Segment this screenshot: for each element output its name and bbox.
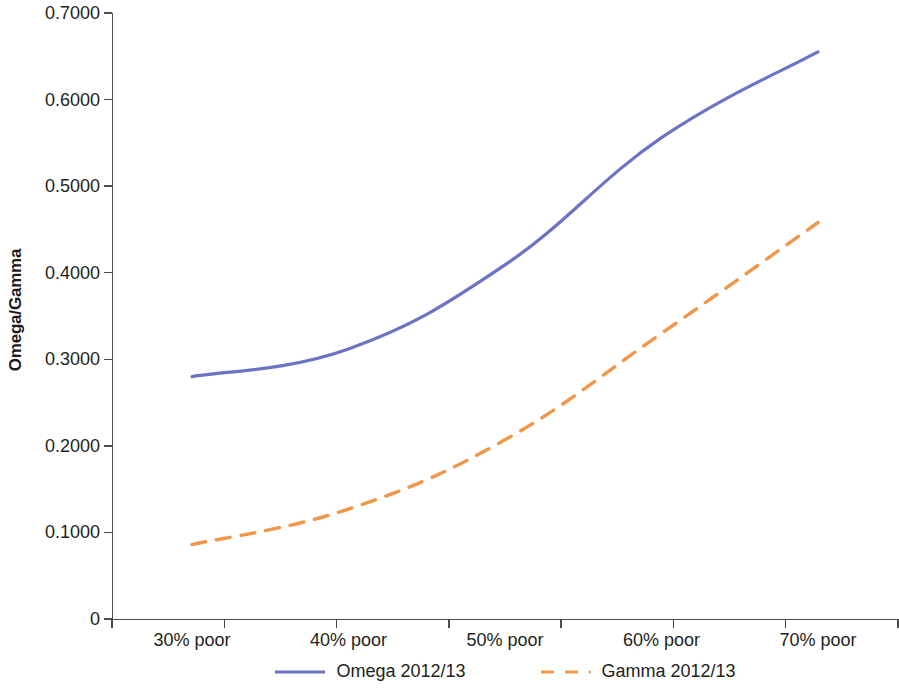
x-axis-tick-mark [897,619,898,628]
y-axis-line [112,13,113,620]
x-axis-tick-mark [560,619,561,628]
y-axis-tick-mark [104,532,112,533]
x-axis-tick-label: 30% poor [153,630,230,651]
x-axis-tick-label: 40% poor [310,630,387,651]
legend-entry[interactable]: Omega 2012/13 [274,661,465,682]
x-axis-tick-label: 50% poor [466,630,543,651]
x-axis-line [112,619,898,620]
legend-entry[interactable]: Gamma 2012/13 [540,661,736,682]
y-axis-tick-label: 0.3000 [14,349,100,370]
y-axis-tick-label: 0.5000 [14,176,100,197]
y-axis-tick-mark [104,445,112,446]
y-axis-tick-label: 0.1000 [14,522,100,543]
y-axis-tick-mark [104,359,112,360]
legend-label: Gamma 2012/13 [602,661,736,682]
x-axis-tick-mark [224,619,225,628]
legend-solid-line-icon [274,665,326,679]
x-axis-tick-mark [111,619,112,628]
data-series-line [192,52,818,377]
y-axis-tick-label: 0.4000 [14,262,100,283]
y-axis-tick-label: 0.6000 [14,89,100,110]
x-axis-tick-label: 60% poor [623,630,700,651]
x-axis-tick-mark [448,619,449,628]
y-axis-tick-mark [104,272,112,273]
y-axis-tick-mark [104,185,112,186]
x-axis-tick-mark [673,619,674,628]
y-axis-tick-labels: 00.10000.20000.30000.40000.50000.60000.7… [14,0,100,692]
x-axis-tick-mark [785,619,786,628]
y-axis-tick-mark [104,12,112,13]
chart-legend: Omega 2012/13Gamma 2012/13 [112,661,898,682]
y-axis-tick-label: 0.7000 [14,3,100,24]
legend-dashed-line-icon [540,665,592,679]
legend-label: Omega 2012/13 [336,661,465,682]
data-series-line [192,223,818,545]
x-axis-tick-label: 70% poor [779,630,856,651]
x-axis-tick-mark [336,619,337,628]
y-axis-tick-label: 0.2000 [14,435,100,456]
y-axis-tick-mark [104,99,112,100]
y-axis-tick-label: 0 [14,609,100,630]
